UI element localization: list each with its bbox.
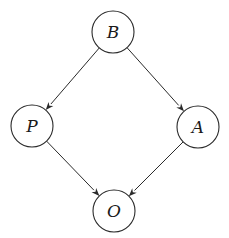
node-label: B	[106, 22, 120, 42]
edge-line	[127, 48, 179, 106]
node-a: A	[177, 106, 219, 148]
edge-b-to-a	[127, 48, 184, 112]
node-o: O	[93, 190, 135, 232]
edge-line	[135, 142, 184, 191]
edge-line	[47, 141, 94, 190]
edge-a-to-o	[129, 142, 183, 196]
node-p: P	[11, 105, 53, 147]
edge-b-to-p	[46, 48, 100, 110]
edge-line	[51, 48, 99, 104]
node-label: O	[107, 201, 121, 221]
edges-group	[46, 48, 184, 197]
node-label: P	[25, 116, 38, 136]
diagram-canvas: BPAO	[0, 0, 229, 238]
edge-p-to-o	[47, 141, 100, 196]
node-b: B	[92, 11, 134, 53]
nodes-group: BPAO	[11, 11, 219, 232]
node-label: A	[190, 117, 204, 137]
